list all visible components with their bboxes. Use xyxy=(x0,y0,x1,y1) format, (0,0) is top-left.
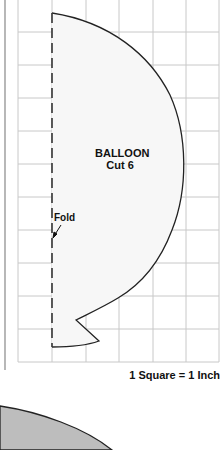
scale-note: 1 Square = 1 Inch xyxy=(118,369,220,382)
cut-instruction: Cut 6 xyxy=(95,159,145,171)
pattern-name: BALLOON xyxy=(95,147,145,159)
fold-label: Fold xyxy=(54,212,75,223)
next-pattern-shape xyxy=(0,406,112,450)
balloon-outline xyxy=(52,13,184,347)
balloon-pattern-diagram xyxy=(0,0,223,450)
pattern-title: BALLOON Cut 6 xyxy=(95,147,145,171)
